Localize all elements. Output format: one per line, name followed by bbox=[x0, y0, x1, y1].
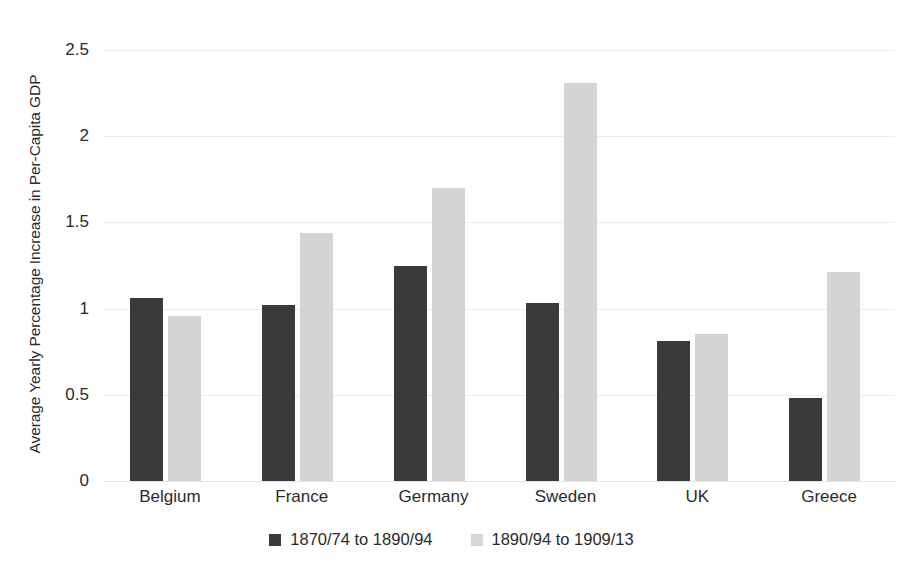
legend-label: 1890/94 to 1909/13 bbox=[492, 530, 634, 549]
bar bbox=[394, 266, 427, 482]
bar bbox=[564, 83, 597, 481]
legend-swatch-icon bbox=[471, 534, 483, 546]
bar bbox=[827, 272, 860, 481]
bar bbox=[262, 305, 295, 481]
chart-legend: 1870/74 to 1890/941890/94 to 1909/13 bbox=[0, 530, 903, 549]
legend-label: 1870/74 to 1890/94 bbox=[290, 530, 432, 549]
y-axis-tick-label: 2 bbox=[80, 126, 89, 146]
y-axis-tick-label: 0 bbox=[80, 471, 89, 491]
y-axis-tick-label: 1 bbox=[80, 299, 89, 319]
bar-group-uk bbox=[631, 50, 763, 481]
x-axis-tick-label: Sweden bbox=[500, 487, 632, 507]
plot-area bbox=[104, 50, 895, 481]
legend-swatch-icon bbox=[269, 534, 281, 546]
y-axis-tick-label: 2.5 bbox=[65, 40, 89, 60]
x-axis-tick-label: UK bbox=[631, 487, 763, 507]
bar bbox=[695, 334, 728, 481]
bar-group-belgium bbox=[104, 50, 236, 481]
bar bbox=[168, 316, 201, 482]
x-axis-tick-label: Belgium bbox=[104, 487, 236, 507]
x-axis-tick-label: Germany bbox=[368, 487, 500, 507]
gridline bbox=[104, 481, 895, 482]
bar bbox=[130, 298, 163, 481]
y-axis-tick-label: 1.5 bbox=[65, 212, 89, 232]
x-axis-tick-label: France bbox=[236, 487, 368, 507]
bar-group-sweden bbox=[500, 50, 632, 481]
x-axis-tick-label: Greece bbox=[763, 487, 895, 507]
bar bbox=[789, 398, 822, 481]
y-axis-tick-label: 0.5 bbox=[65, 385, 89, 405]
legend-item[interactable]: 1890/94 to 1909/13 bbox=[471, 530, 634, 549]
bar bbox=[432, 188, 465, 481]
legend-item[interactable]: 1870/74 to 1890/94 bbox=[269, 530, 432, 549]
bar-group-greece bbox=[763, 50, 895, 481]
bar bbox=[526, 303, 559, 481]
bar-group-france bbox=[236, 50, 368, 481]
bar-chart: Average Yearly Percentage Increase in Pe… bbox=[0, 0, 903, 580]
bar bbox=[657, 341, 690, 481]
bar-group-germany bbox=[368, 50, 500, 481]
x-axis-tick-labels: BelgiumFranceGermanySwedenUKGreece bbox=[104, 487, 895, 517]
bar bbox=[300, 233, 333, 481]
y-axis-tick-labels: 00.511.522.5 bbox=[0, 0, 100, 580]
